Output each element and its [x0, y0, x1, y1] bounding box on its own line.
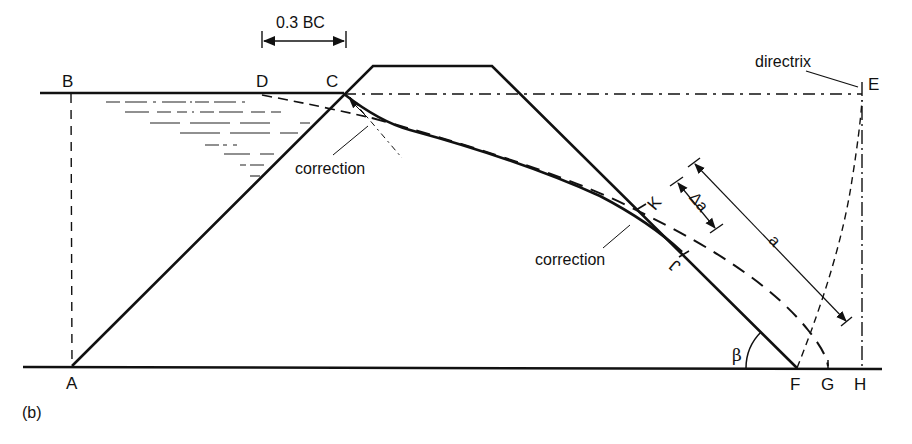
correction-leader-downstream: [603, 225, 630, 248]
dimension-0.3BC: [262, 31, 346, 48]
correction-leader-upstream: [333, 126, 368, 155]
beta-label: β: [732, 345, 742, 365]
line-B-A: [71, 94, 72, 366]
beta-angle-arc: [746, 332, 761, 368]
dam-outline: [72, 66, 797, 368]
directrix-label: directrix: [755, 53, 811, 70]
delta-a-label: Δa: [686, 189, 712, 215]
construction-line-c: [350, 97, 402, 158]
tick-K: [636, 204, 646, 210]
panel-label: (b): [22, 404, 42, 421]
phreatic-line: [344, 94, 682, 252]
directrix-leader: [806, 71, 858, 87]
diagram-canvas: B D C E A F G H K J 0.3 BC directrix cor…: [0, 0, 912, 444]
dam-seepage-diagram: B D C E A F G H K J 0.3 BC directrix cor…: [0, 0, 912, 444]
label-G: G: [821, 375, 834, 394]
label-D: D: [256, 72, 268, 91]
label-A: A: [66, 374, 78, 393]
label-C: C: [326, 72, 338, 91]
label-B: B: [62, 72, 73, 91]
label-H: H: [854, 375, 866, 394]
dimension-label-0.3BC: 0.3 BC: [276, 14, 325, 31]
ground-line: [23, 367, 882, 369]
label-J: J: [666, 256, 685, 276]
correction-label-upstream: correction: [295, 160, 365, 177]
label-F: F: [790, 375, 800, 394]
water-hatching: [106, 102, 312, 176]
label-E: E: [868, 75, 879, 94]
basic-parabola-entry: [262, 95, 372, 118]
correction-label-downstream: correction: [535, 251, 605, 268]
basic-parabola: [372, 118, 828, 366]
label-K: K: [644, 192, 666, 213]
